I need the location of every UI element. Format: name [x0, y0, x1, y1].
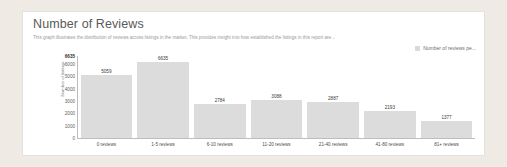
y-tick-label: 5000 — [65, 74, 75, 79]
y-tick-label: 4000 — [65, 86, 75, 91]
bar-rect[interactable] — [251, 100, 303, 138]
bar-column[interactable]: 3088 — [251, 56, 303, 138]
y-tick-label: 3000 — [65, 98, 75, 103]
bar-column[interactable]: 2193 — [364, 56, 416, 138]
y-axis-ticks: 66356000500040003000200010000 — [53, 56, 75, 138]
bar-value-label: 5059 — [101, 69, 111, 74]
chart-subtitle: This graph illustrates the distribution … — [33, 35, 481, 40]
legend-label: Number of reviews pe... — [423, 45, 476, 51]
y-tick-label: 0 — [72, 136, 75, 141]
chart-plot-area: Number of listings 663560005000400030002… — [39, 56, 479, 152]
y-tick-label: 6635 — [65, 54, 75, 59]
bar-rect[interactable] — [421, 121, 473, 138]
bar-rect[interactable] — [194, 104, 246, 138]
bar-value-label: 2784 — [215, 98, 225, 103]
y-tick-label: 6000 — [65, 61, 75, 66]
bar-rect[interactable] — [81, 75, 133, 138]
x-tick-label: 21-40 reviews — [307, 142, 359, 147]
bar-value-label: 2887 — [328, 96, 338, 101]
y-tick-label: 1000 — [65, 123, 75, 128]
bar-rect[interactable] — [364, 111, 416, 138]
chart-legend: Number of reviews pe... — [415, 45, 476, 51]
bar-series: 5059663527843088288721931377 — [78, 56, 475, 138]
x-axis-labels: 0 reviews1-5 reviews6-10 reviews11-20 re… — [78, 142, 475, 147]
page-title: Number of Reviews — [33, 17, 144, 31]
bar-value-label: 1377 — [441, 115, 451, 120]
x-axis-line — [77, 138, 475, 139]
x-tick-label: 11-20 reviews — [251, 142, 303, 147]
bar-rect[interactable] — [307, 102, 359, 138]
bar-column[interactable]: 1377 — [421, 56, 473, 138]
bar-rect[interactable] — [137, 62, 189, 138]
x-tick-label: 81+ reviews — [421, 142, 473, 147]
bar-column[interactable]: 5059 — [81, 56, 133, 138]
bar-value-label: 3088 — [271, 94, 281, 99]
x-tick-label: 0 reviews — [81, 142, 133, 147]
legend-swatch-icon — [415, 46, 420, 51]
x-tick-label: 41-80 reviews — [364, 142, 416, 147]
chart-card: Number of Reviews This graph illustrates… — [22, 11, 485, 156]
bar-column[interactable]: 6635 — [137, 56, 189, 138]
bar-value-label: 6635 — [158, 56, 168, 61]
y-tick-label: 2000 — [65, 111, 75, 116]
bar-column[interactable]: 2784 — [194, 56, 246, 138]
x-tick-label: 1-5 reviews — [137, 142, 189, 147]
bar-value-label: 2193 — [385, 105, 395, 110]
bar-column[interactable]: 2887 — [307, 56, 359, 138]
x-tick-label: 6-10 reviews — [194, 142, 246, 147]
